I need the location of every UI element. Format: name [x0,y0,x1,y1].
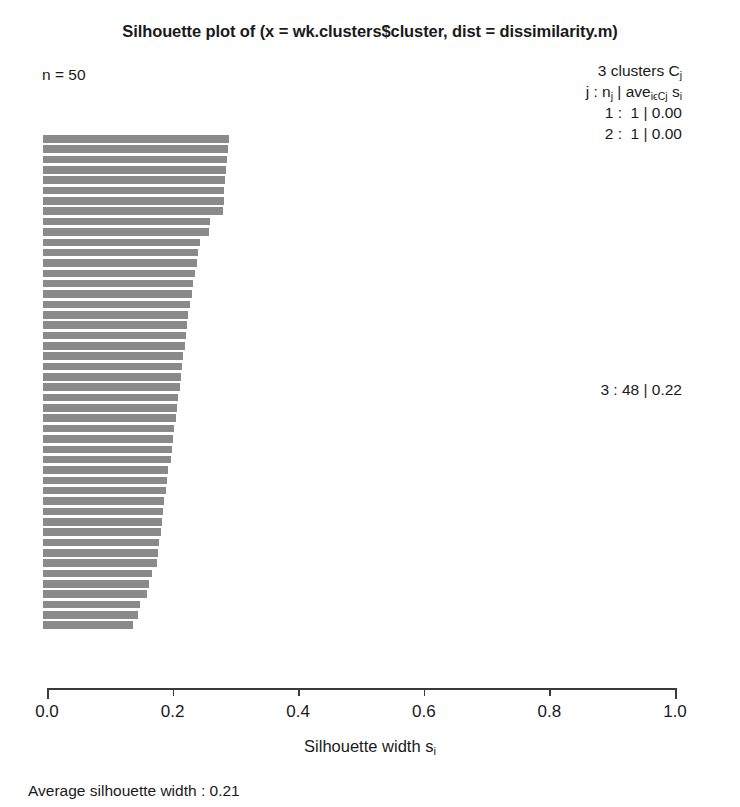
x-axis-tick-label: 0.6 [394,702,454,722]
x-axis-tick [298,688,300,696]
x-axis-tick [675,688,677,699]
x-axis-tick-label: 0.4 [268,702,328,722]
x-axis-tick-label: 0.2 [143,702,203,722]
average-silhouette-width-label: Average silhouette width : 0.21 [28,782,240,800]
x-axis-tick-label: 1.0 [645,702,705,722]
x-axis-tick-label: 0.0 [17,702,77,722]
x-axis-tick-label: 0.8 [519,702,579,722]
x-axis: 0.00.20.40.60.81.0 [0,0,740,807]
x-axis-line [47,688,675,690]
x-axis-label: Silhouette width si [0,737,740,756]
x-axis-tick [47,688,49,699]
silhouette-plot-figure: Silhouette plot of (x = wk.clusters$clus… [0,0,740,807]
x-axis-tick [424,688,426,696]
x-axis-label-text: Silhouette width s [304,737,433,755]
x-axis-label-subscript: i [433,745,436,757]
x-axis-tick [549,688,551,696]
x-axis-tick [173,688,175,696]
